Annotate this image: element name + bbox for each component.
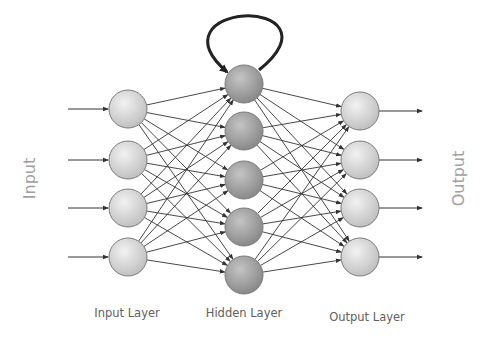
connection-edge: [144, 191, 228, 247]
recurrent-loop-arrow: [208, 16, 282, 72]
output-layer-label: Output Layer: [329, 310, 405, 324]
hidden-layer-label: Hidden Layer: [206, 306, 283, 320]
hidden-node: [225, 65, 263, 103]
output-side-label: Output: [449, 151, 468, 207]
input-side-label: Input: [20, 158, 39, 199]
output-node: [341, 141, 379, 179]
output-node: [341, 238, 379, 276]
hidden-node: [225, 112, 263, 150]
input-layer-label: Input Layer: [94, 306, 160, 320]
input-node: [109, 238, 147, 276]
network-canvas: [0, 0, 492, 343]
input-node: [109, 90, 147, 128]
connection-edge: [147, 260, 225, 272]
connection-edge: [260, 218, 343, 266]
connection-edge: [147, 113, 225, 128]
input-node: [109, 189, 147, 227]
hidden-node: [225, 208, 263, 246]
connection-edge: [139, 100, 234, 241]
connection-edge: [147, 211, 225, 224]
output-node: [341, 92, 379, 130]
input-node: [109, 141, 147, 179]
connection-edge: [146, 136, 225, 156]
connection-edge: [141, 145, 231, 243]
connection-edge: [146, 232, 225, 252]
connection-edge: [260, 121, 343, 170]
connection-edge: [260, 94, 344, 149]
connection-edge: [147, 88, 225, 105]
hidden-node: [225, 161, 263, 199]
connection-edge: [255, 127, 349, 260]
connection-edge: [144, 218, 227, 266]
hidden-node: [225, 256, 263, 294]
connection-edge: [263, 260, 341, 272]
connection-edge: [141, 123, 230, 214]
nodes: [109, 65, 379, 294]
output-node: [341, 189, 379, 227]
